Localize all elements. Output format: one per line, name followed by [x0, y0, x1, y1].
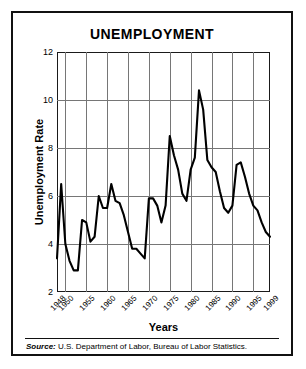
x-axis-title: Years: [57, 321, 270, 333]
data-line-series: [57, 52, 270, 292]
y-axis-tick-label: 4: [48, 239, 53, 249]
x-axis-tick-label: 1995: [245, 294, 264, 313]
source-divider: [25, 338, 279, 339]
x-axis-tick-label: 1960: [99, 294, 118, 313]
y-axis-title: Unemployment Rate: [31, 52, 47, 292]
y-axis-tick-label: 2: [48, 287, 53, 297]
y-axis-tick-label: 12: [43, 47, 53, 57]
plot-wrapper: 24681012 1948195019551960196519701975198…: [57, 52, 270, 292]
y-axis-title-text: Unemployment Rate: [33, 119, 45, 225]
y-axis-tick-label: 10: [43, 95, 53, 105]
source-text: U.S. Department of Labor, Bureau of Labo…: [56, 342, 247, 351]
x-axis-tick-label: 1970: [140, 294, 159, 313]
y-axis-tick-label: 8: [48, 143, 53, 153]
unemployment-rate-line: [57, 90, 270, 270]
chart-title: UNEMPLOYMENT: [13, 26, 291, 42]
source-label: Source:: [26, 342, 56, 351]
x-axis-tick-label: 1965: [120, 294, 139, 313]
x-axis-tick-label: 1975: [161, 294, 180, 313]
x-axis-tick-label: 1999: [262, 294, 281, 313]
x-axis-tick-label: 1985: [203, 294, 222, 313]
x-axis-tick-label: 1955: [78, 294, 97, 313]
chart-figure: UNEMPLOYMENT Unemployment Rate 24681012 …: [11, 11, 293, 356]
source-note: Source: U.S. Department of Labor, Bureau…: [26, 342, 281, 352]
y-axis-tick-label: 6: [48, 191, 53, 201]
x-axis-tick-label: 1990: [224, 294, 243, 313]
x-axis-tick-label: 1980: [182, 294, 201, 313]
